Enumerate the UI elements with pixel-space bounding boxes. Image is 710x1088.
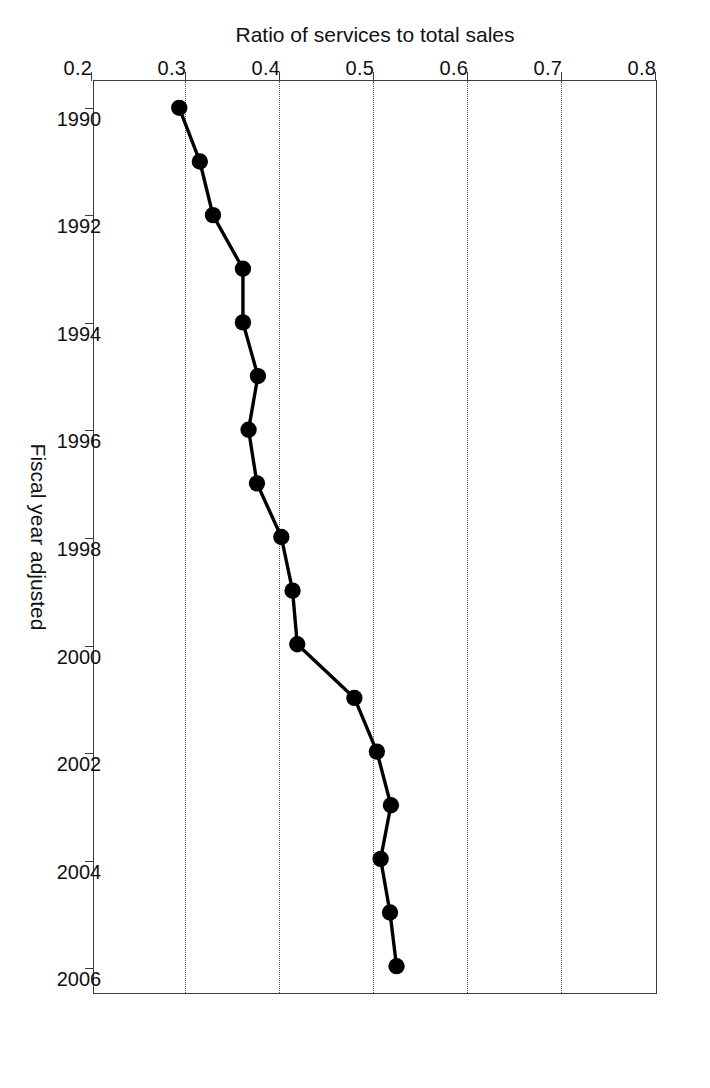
- data-point: [372, 851, 388, 867]
- data-point: [382, 904, 398, 920]
- y-tick-label: 0.7: [534, 57, 562, 80]
- data-point: [388, 958, 404, 974]
- data-point: [250, 368, 266, 384]
- plot-area: 0.20.30.40.50.60.70.8 199019921994199619…: [93, 80, 657, 994]
- data-point: [383, 797, 399, 813]
- y-tick-label: 0.5: [346, 57, 374, 80]
- y-axis-title: Ratio of services to total sales: [93, 22, 657, 48]
- data-series: [94, 81, 656, 993]
- x-axis-title: Fiscal year adjusted: [26, 80, 50, 994]
- rotated-figure-wrapper: Ratio of services to total sales 0.20.30…: [0, 0, 710, 1088]
- y-axis-title-text: Ratio of services to total sales: [236, 23, 515, 47]
- y-tick-label: 0.2: [64, 57, 92, 80]
- y-tick-label: 0.4: [252, 57, 280, 80]
- y-tick-label: 0.6: [440, 57, 468, 80]
- chart-figure: Ratio of services to total sales 0.20.30…: [0, 0, 710, 1088]
- data-point: [346, 690, 362, 706]
- data-point: [240, 422, 256, 438]
- data-point: [235, 314, 251, 330]
- data-point: [284, 582, 300, 598]
- y-tick-label: 0.3: [158, 57, 186, 80]
- data-point: [171, 100, 187, 116]
- data-point: [192, 153, 208, 169]
- data-point: [289, 636, 305, 652]
- y-tick-label: 0.8: [628, 57, 656, 80]
- data-point: [369, 743, 385, 759]
- data-point: [273, 529, 289, 545]
- data-point: [249, 475, 265, 491]
- data-point: [235, 261, 251, 277]
- x-axis-title-text: Fiscal year adjusted: [27, 444, 50, 631]
- data-point: [205, 207, 221, 223]
